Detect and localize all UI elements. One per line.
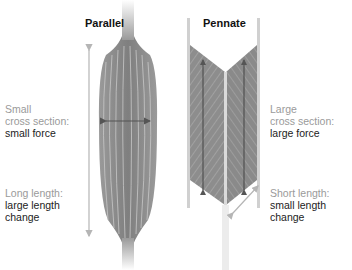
label-line: change <box>5 211 63 223</box>
label-line: small force <box>5 127 69 139</box>
pennate-cross-section-label: Large cross section: large force <box>270 103 334 139</box>
parallel-muscle <box>99 0 157 270</box>
label-line: small length <box>270 199 330 211</box>
parallel-title: Parallel <box>85 17 124 29</box>
label-line: Long length: <box>5 187 63 199</box>
label-line: Small <box>5 103 69 115</box>
label-line: large length <box>5 199 63 211</box>
label-line: change <box>270 211 330 223</box>
label-line: large force <box>270 127 334 139</box>
label-line: cross section: <box>270 115 334 127</box>
label-line: Large <box>270 103 334 115</box>
parallel-length-label: Long length: large length change <box>5 187 63 223</box>
parallel-cross-section-label: Small cross section: small force <box>5 103 69 139</box>
pennate-title: Pennate <box>203 17 246 29</box>
pennate-length-label: Short length: small length change <box>270 187 330 223</box>
label-line: Short length: <box>270 187 330 199</box>
pennate-muscle <box>187 18 260 270</box>
label-line: cross section: <box>5 115 69 127</box>
